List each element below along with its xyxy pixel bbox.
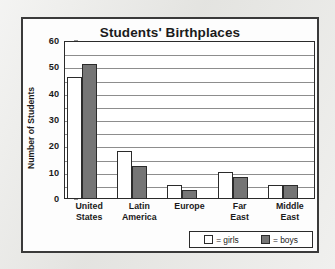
legend-swatch-boys xyxy=(261,235,270,244)
bar-group xyxy=(167,42,217,198)
legend-label-girls: = girls xyxy=(216,235,239,245)
y-tick-label: 60 xyxy=(49,36,59,46)
y-axis-title-label: Number of Students xyxy=(26,87,36,169)
x-tick-label: UnitedStates xyxy=(64,201,114,222)
bar-girls xyxy=(67,77,82,198)
bar-boys xyxy=(132,166,147,198)
y-axis-tick-labels: 6050403020100 xyxy=(37,41,61,199)
x-tick-label-line: States xyxy=(64,212,114,223)
x-tick-label: MiddleEast xyxy=(265,201,315,222)
legend-entry-boys: = boys xyxy=(261,235,298,245)
y-axis-title: Number of Students xyxy=(24,61,38,195)
x-tick-label-line: East xyxy=(215,212,265,223)
x-tick-label: LatinAmerica xyxy=(114,201,164,222)
x-tick-label-line: Europe xyxy=(164,201,214,212)
x-tick-label-line: East xyxy=(265,212,315,223)
bar-boys xyxy=(82,64,97,198)
x-tick-label-line: America xyxy=(114,212,164,223)
x-tick-label-line: Middle xyxy=(265,201,315,212)
y-tick-label: 30 xyxy=(49,115,59,125)
x-tick-label-line: United xyxy=(64,201,114,212)
x-tick-label-line: Far xyxy=(215,201,265,212)
bar-girls xyxy=(117,151,132,198)
legend-entry-girls: = girls xyxy=(204,235,239,245)
plot-area xyxy=(64,41,315,199)
legend-label-boys: = boys xyxy=(273,235,298,245)
bar-group xyxy=(218,42,268,198)
x-tick-label-line: Latin xyxy=(114,201,164,212)
y-tick-label: 40 xyxy=(49,89,59,99)
y-tick-label: 20 xyxy=(49,141,59,151)
chart-legend: = girls= boys xyxy=(189,231,313,248)
bar-boys xyxy=(233,177,248,198)
bar-girls xyxy=(167,185,182,198)
x-tick-label: FarEast xyxy=(215,201,265,222)
x-tick-label: Europe xyxy=(164,201,214,212)
bar-groups xyxy=(65,42,314,198)
legend-swatch-girls xyxy=(204,235,213,244)
bar-boys xyxy=(182,190,197,198)
x-axis-tick-labels: UnitedStatesLatinAmericaEuropeFarEastMid… xyxy=(64,201,315,233)
bar-group xyxy=(268,42,315,198)
bar-boys xyxy=(283,185,298,198)
y-tick-label: 50 xyxy=(49,62,59,72)
chart-title: Students' Birthplaces xyxy=(23,25,317,40)
y-tick-label: 10 xyxy=(49,168,59,178)
y-tick-label: 0 xyxy=(54,194,59,204)
chart-figure-frame: Students' Birthplaces Number of Students… xyxy=(21,17,319,253)
bar-group xyxy=(117,42,167,198)
bar-girls xyxy=(268,185,283,198)
bar-girls xyxy=(218,172,233,198)
bar-group xyxy=(67,42,117,198)
